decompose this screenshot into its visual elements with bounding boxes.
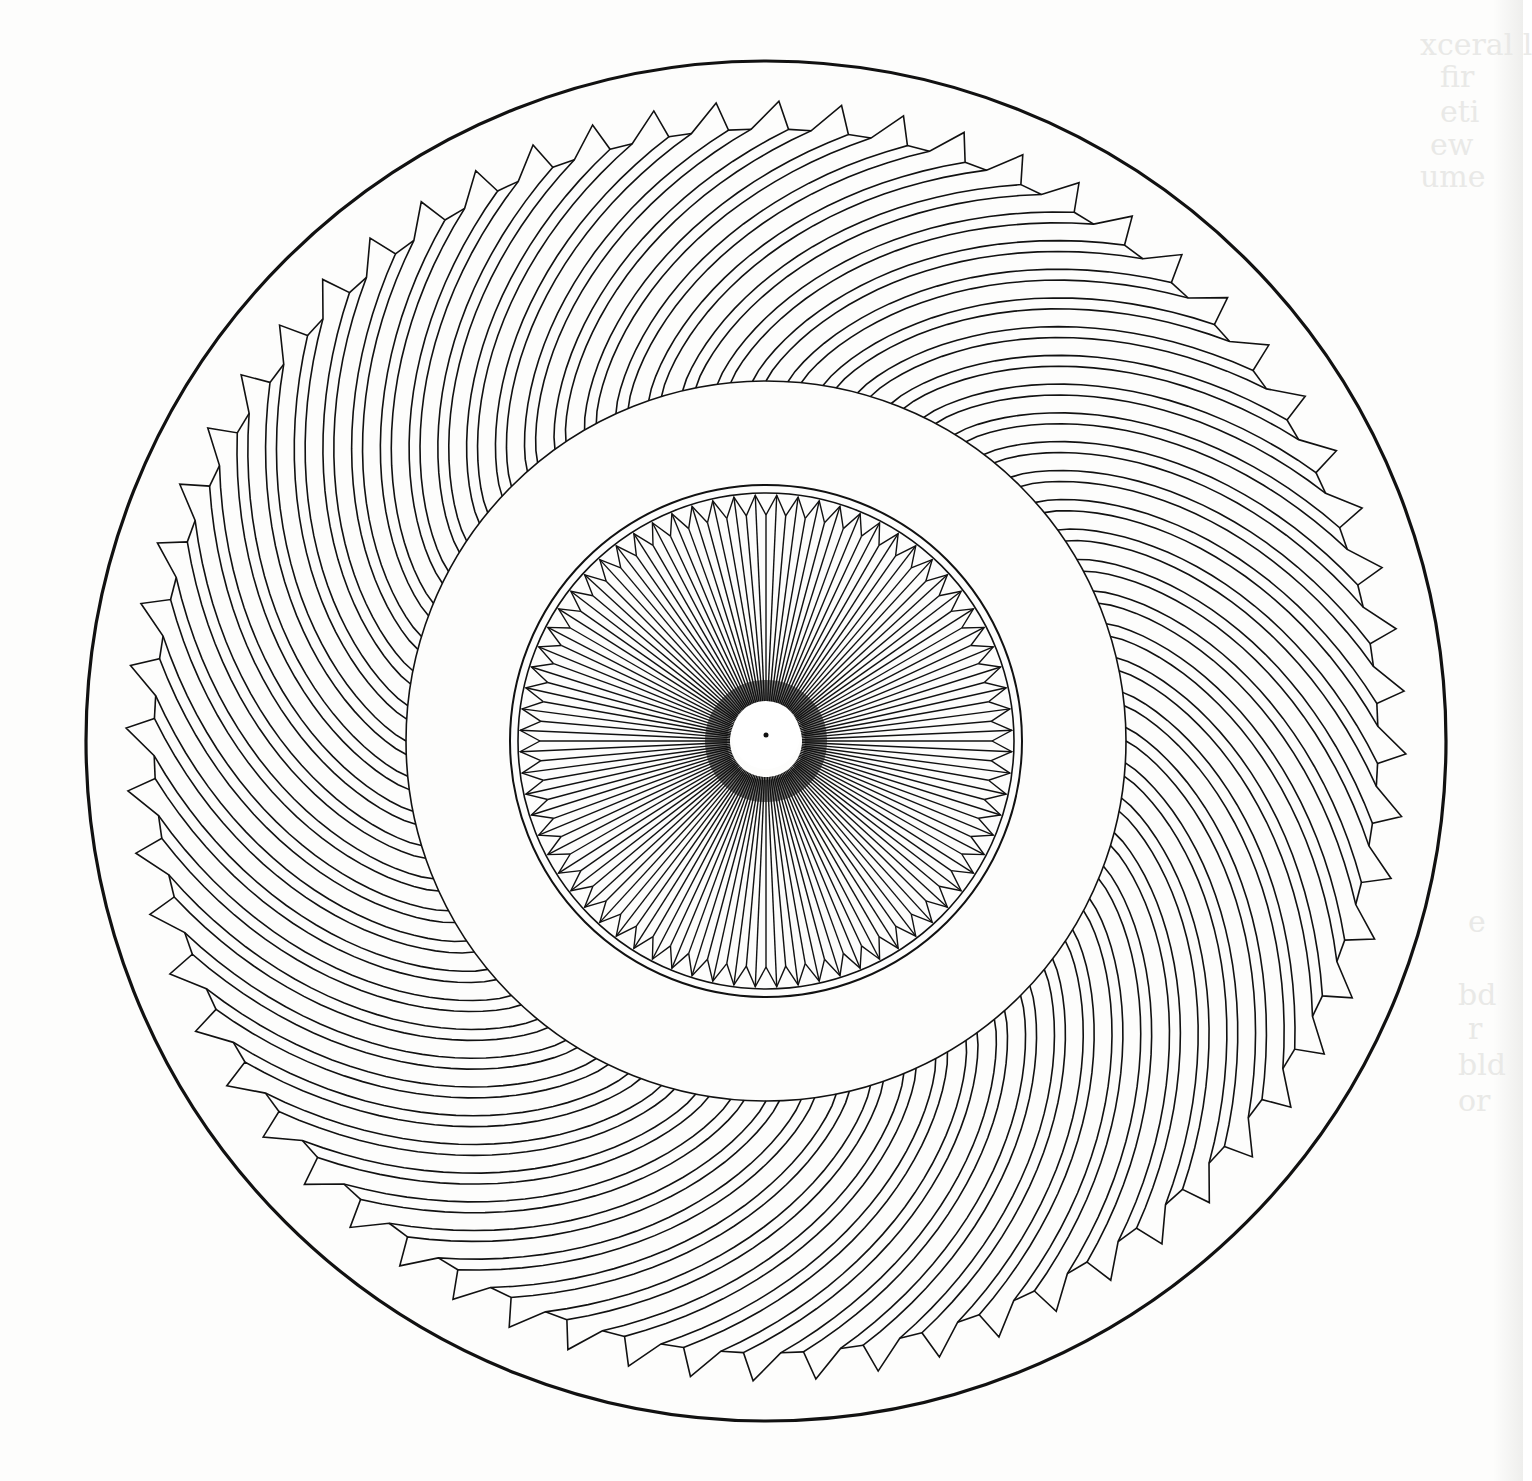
outer-gear-root [237, 413, 249, 433]
inner-gear-tooth [548, 627, 570, 645]
outer-gear-root [171, 577, 177, 599]
outer-gear-root [154, 756, 155, 779]
scan-edge-shadow [1493, 0, 1523, 1481]
outer-gear-root [1337, 940, 1345, 961]
inner-gear-tooth [962, 837, 984, 855]
outer-gear-root [438, 1258, 458, 1270]
inner-gear-radial-line [559, 760, 736, 873]
inner-gear-radial-line [606, 581, 740, 715]
outer-gear-root [1369, 823, 1373, 846]
inner-gear-radial-line [791, 766, 925, 900]
outer-gear-root [545, 1312, 566, 1320]
outer-gear-tooth [684, 1040, 967, 1376]
outer-gear-root [602, 1331, 624, 1337]
outer-gear-root [729, 129, 752, 130]
inner-gear-tooth [548, 837, 570, 855]
outer-gear-root [721, 1351, 744, 1352]
center-point-icon [764, 733, 769, 738]
outer-gear-tooth [1065, 540, 1401, 823]
inner-gear-tooth [962, 627, 984, 645]
inner-gear-radial-line [785, 534, 898, 711]
outer-gear-root [1377, 704, 1378, 727]
outer-gear-tooth [803, 996, 1025, 1379]
inner-gear-tooth [862, 523, 880, 545]
outer-gear-root [1021, 185, 1042, 195]
outer-gear-root [160, 636, 164, 659]
outer-gear-tooth [1021, 481, 1404, 703]
outer-gear-root [848, 135, 871, 139]
outer-gear-root [1074, 212, 1094, 224]
inner-gear-radial-line [785, 771, 898, 948]
outer-gear-root [210, 466, 220, 487]
outer-gear-root [1313, 996, 1323, 1017]
outer-gear-root [907, 146, 929, 152]
outer-gear-root [661, 1344, 684, 1348]
outer-gear-root [491, 1288, 512, 1298]
inner-gear-radial-line [634, 534, 747, 711]
inner-gear-radial-line [634, 771, 747, 948]
inner-gear-radial-line [606, 766, 740, 900]
outer-gear-root [1376, 764, 1377, 787]
outer-gear-root [187, 520, 195, 541]
outer-gear-root [781, 1352, 804, 1353]
inner-gear-tooth [652, 523, 670, 545]
inner-gear-radial-line [796, 760, 973, 873]
outer-gear-tooth [128, 778, 511, 1000]
inner-gear-radial-line [791, 581, 925, 715]
outer-gear-tooth [565, 105, 848, 441]
inner-gear-radial-line [796, 609, 973, 722]
outer-gear-tooth [506, 103, 728, 486]
outer-gear-root [154, 696, 155, 719]
inner-gear-tooth [652, 937, 670, 959]
outer-gear-root [965, 162, 986, 170]
inner-gear-tooth [862, 937, 880, 959]
inner-gear-radial-line [559, 609, 736, 722]
outer-gear-root [1356, 882, 1362, 904]
outer-gear-tooth [130, 659, 466, 942]
outer-gear-root [789, 129, 812, 130]
outer-gear-root [1283, 1049, 1295, 1069]
